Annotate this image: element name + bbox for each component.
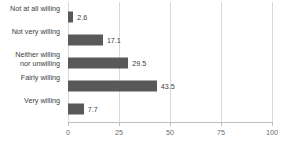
category-label: Very willing — [0, 97, 60, 106]
bar-value-label: 43.5 — [161, 82, 175, 91]
bar-group: 43.5 — [68, 81, 175, 92]
bar-chart: Not at all willing 2.6 Not very willing … — [0, 0, 294, 149]
bar-group: 2.6 — [68, 12, 87, 23]
category-label: Not at all willing — [0, 5, 60, 14]
bar-row: Neither willing nor unwilling 29.5 — [0, 51, 294, 75]
bar-group: 17.1 — [68, 35, 121, 46]
bar-group: 7.7 — [68, 104, 98, 115]
bar — [68, 58, 128, 69]
x-axis-tick — [272, 123, 273, 126]
x-tick-label: 50 — [155, 128, 185, 137]
x-axis-tick — [68, 123, 69, 126]
bar — [68, 35, 103, 46]
bar-group: 29.5 — [68, 58, 146, 69]
bar-value-label: 7.7 — [88, 105, 98, 114]
x-tick-label: 25 — [104, 128, 134, 137]
bar-value-label: 17.1 — [107, 36, 121, 45]
x-tick-label: 75 — [206, 128, 236, 137]
bar — [68, 81, 157, 92]
x-axis-tick — [221, 123, 222, 126]
bar-value-label: 29.5 — [132, 59, 146, 68]
x-tick-label: 0 — [53, 128, 83, 137]
bar — [68, 104, 84, 115]
bar — [68, 12, 73, 23]
bar-value-label: 2.6 — [77, 13, 87, 22]
category-label: Fairly willing — [0, 74, 60, 83]
category-label: Not very willing — [0, 28, 60, 37]
bar-row: Not very willing 17.1 — [0, 28, 294, 52]
x-tick-label: 100 — [257, 128, 287, 137]
x-axis-tick — [119, 123, 120, 126]
category-label: Neither willing nor unwilling — [0, 51, 60, 68]
x-axis-tick — [170, 123, 171, 126]
bar-row: Fairly willing 43.5 — [0, 74, 294, 98]
bar-row: Not at all willing 2.6 — [0, 5, 294, 29]
bar-row: Very willing 7.7 — [0, 97, 294, 121]
